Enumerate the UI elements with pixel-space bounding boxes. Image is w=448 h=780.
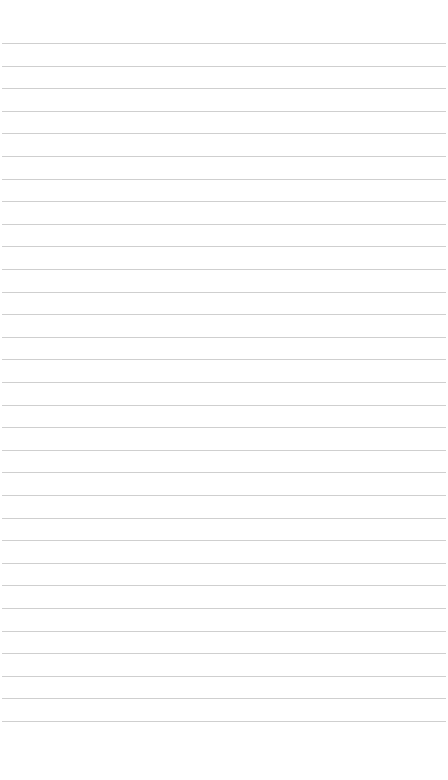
ruled-line — [2, 156, 446, 157]
ruled-line — [2, 518, 446, 519]
ruled-line — [2, 405, 446, 406]
ruled-line — [2, 111, 446, 112]
ruled-line — [2, 721, 446, 722]
ruled-line — [2, 88, 446, 89]
ruled-line — [2, 43, 446, 44]
ruled-line — [2, 66, 446, 67]
ruled-line — [2, 224, 446, 225]
ruled-line — [2, 246, 446, 247]
ruled-line — [2, 631, 446, 632]
ruled-line — [2, 698, 446, 699]
ruled-line — [2, 359, 446, 360]
ruled-line — [2, 450, 446, 451]
ruled-line — [2, 179, 446, 180]
ruled-line — [2, 608, 446, 609]
ruled-line — [2, 495, 446, 496]
ruled-line — [2, 133, 446, 134]
ruled-line — [2, 563, 446, 564]
ruled-line — [2, 337, 446, 338]
ruled-line — [2, 292, 446, 293]
ruled-line — [2, 676, 446, 677]
ruled-line — [2, 201, 446, 202]
ruled-line — [2, 314, 446, 315]
ruled-line — [2, 269, 446, 270]
ruled-line — [2, 653, 446, 654]
ruled-line — [2, 540, 446, 541]
lined-paper-page — [0, 0, 448, 780]
ruled-line — [2, 382, 446, 383]
ruled-line — [2, 585, 446, 586]
ruled-line — [2, 472, 446, 473]
ruled-line — [2, 427, 446, 428]
